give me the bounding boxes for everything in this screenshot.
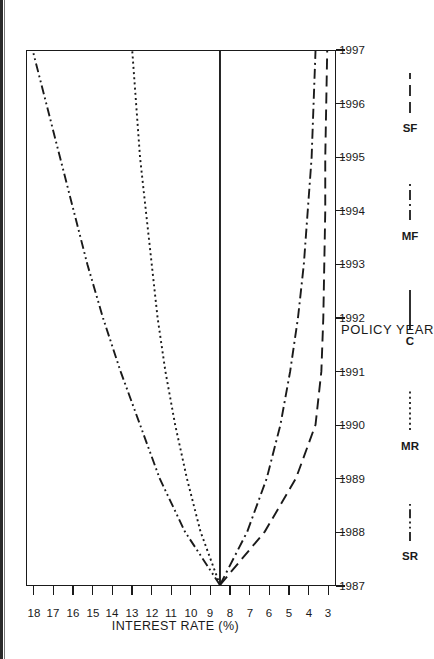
y-axis-title: INTEREST RATE (%) (5, 619, 345, 633)
plot-lines-svg (27, 51, 335, 585)
y-axis-tick (229, 586, 230, 595)
y-axis-tick (308, 586, 309, 595)
y-axis-tick (92, 586, 93, 595)
page-scan-edge-inner (4, 0, 5, 659)
x-axis-tick-label: 1989 (329, 472, 375, 484)
chart-legend: SRMRCMFSF (400, 50, 420, 586)
x-axis-tick-label: 1994 (329, 204, 375, 216)
legend-label: SF (403, 121, 418, 133)
legend-item-mf[interactable]: MF (404, 179, 416, 244)
y-axis-tick (151, 586, 152, 595)
plot-area (26, 50, 336, 586)
y-axis-tick (131, 586, 132, 595)
x-axis-tick-label: 1995 (329, 151, 375, 163)
page-scan-edge (0, 0, 3, 659)
legend-item-sf[interactable]: SF (404, 72, 416, 135)
series-line-mf (220, 51, 316, 585)
legend-line-swatch-sr (405, 499, 415, 541)
x-axis-tick-label: 1990 (329, 419, 375, 431)
y-axis-tick (210, 586, 211, 595)
legend-item-sr[interactable]: SR (404, 499, 416, 563)
legend-line-swatch-mf (405, 179, 415, 221)
legend-label: SR (402, 549, 418, 561)
y-axis-tick (269, 586, 270, 595)
legend-item-c[interactable]: C (404, 288, 416, 344)
y-axis-tick (53, 586, 54, 595)
legend-line-swatch-c (405, 288, 415, 330)
series-line-mr (132, 51, 220, 585)
y-axis-ticks (26, 586, 336, 595)
x-axis-tick-label: 1997 (329, 44, 375, 56)
y-axis-tick (328, 586, 329, 595)
legend-label: MR (401, 440, 419, 452)
y-axis-tick (171, 586, 172, 595)
legend-line-swatch-sf (405, 72, 415, 114)
x-axis-tick-label: 1991 (329, 365, 375, 377)
x-axis-title: POLICY YEAR (380, 10, 395, 650)
x-axis-tick-label: 1988 (329, 526, 375, 538)
legend-item-mr[interactable]: MR (404, 389, 416, 455)
y-axis-tick (190, 586, 191, 595)
y-axis-tick (33, 586, 34, 595)
y-axis-title-text: INTEREST RATE (%) (111, 619, 238, 633)
y-axis-tick (72, 586, 73, 595)
y-axis-tick (288, 586, 289, 595)
x-axis-tick-labels: 1987198819891990199119921993199419951996… (346, 50, 372, 586)
series-line-sr (33, 51, 220, 585)
y-axis-tick (249, 586, 250, 595)
series-line-sf (220, 51, 327, 585)
legend-label: C (406, 334, 414, 346)
chart-figure: 1987198819891990199119921993199419951996… (8, 10, 420, 650)
legend-line-swatch-mr (405, 389, 415, 431)
x-axis-tick-label: 1996 (329, 97, 375, 109)
chart-figure-rotator: 1987198819891990199119921993199419951996… (8, 10, 420, 650)
y-axis-tick (112, 586, 113, 595)
x-axis-tick-label: 1993 (329, 258, 375, 270)
legend-label: MF (402, 229, 419, 241)
